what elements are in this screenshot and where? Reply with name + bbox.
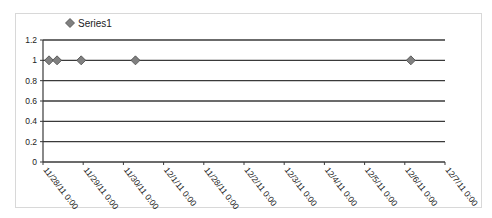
y-tick-label: 1	[32, 55, 37, 65]
data-point-marker	[406, 56, 415, 65]
x-tick-label: 11/30/11 0:00	[122, 165, 161, 211]
x-tick-label: 12/1/11 0:00	[162, 165, 199, 208]
legend-marker-icon	[66, 19, 75, 28]
y-tick-label: 0.4	[25, 116, 37, 126]
y-tick-label: 0.8	[25, 76, 37, 86]
y-tick-label: 0.6	[25, 96, 37, 106]
scatter-chart: 00.20.40.60.811.211/28/11 0:0011/29/11 0…	[0, 0, 492, 218]
y-tick-label: 0.2	[25, 137, 37, 147]
data-point-marker	[53, 56, 62, 65]
x-tick-label: 12/6/11 0:00	[403, 165, 440, 208]
x-tick-label: 12/2/11 0:00	[242, 165, 279, 208]
y-tick-label: 0	[32, 157, 37, 167]
x-tick-label: 12/7/11 0:00	[443, 165, 480, 208]
x-tick-label: 11/29/11 0:00	[82, 165, 121, 211]
x-tick-label: 12/5/11 0:00	[363, 165, 400, 208]
data-point-marker	[77, 56, 86, 65]
data-point-marker	[131, 56, 140, 65]
x-tick-label: 11/28/11 0:00	[202, 165, 241, 211]
x-tick-label: 12/4/11 0:00	[323, 165, 360, 208]
legend-label: Series1	[78, 18, 112, 29]
x-tick-label: 11/28/11 0:00	[41, 165, 80, 211]
x-tick-label: 12/3/11 0:00	[283, 165, 320, 208]
y-tick-label: 1.2	[25, 35, 37, 45]
